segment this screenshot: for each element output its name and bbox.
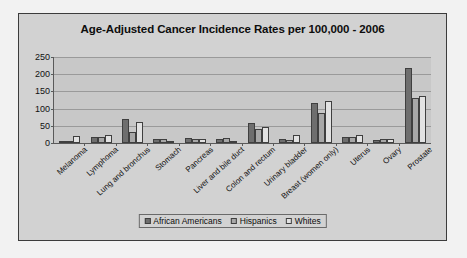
bar-group (85, 57, 116, 143)
bar (199, 139, 206, 143)
bar (342, 137, 349, 143)
bar (279, 139, 286, 143)
bar (160, 139, 167, 143)
legend-swatch-icon (144, 218, 150, 224)
legend-swatch-icon (231, 218, 237, 224)
legend-label: Hispanics (240, 216, 277, 226)
bar (286, 140, 293, 143)
legend-item[interactable]: African Americans (144, 216, 222, 226)
bar (311, 103, 318, 143)
bar-group (54, 57, 85, 143)
bar (255, 129, 262, 143)
bar (167, 141, 174, 143)
bar (325, 101, 332, 143)
bar (349, 137, 356, 143)
bar (153, 139, 160, 143)
bar (405, 68, 412, 143)
bar (318, 113, 325, 143)
bar (356, 135, 363, 143)
bar-group (400, 57, 431, 143)
legend-label: African Americans (153, 216, 222, 226)
bar-group (305, 57, 336, 143)
x-axis-label: Prostate (406, 145, 434, 172)
y-axis-tick-label: 0 (20, 138, 50, 148)
bar (122, 119, 129, 143)
bar (223, 138, 230, 143)
bar-group (274, 57, 305, 143)
legend-label: Whites (295, 216, 321, 226)
x-axis-label: Stomach (154, 145, 183, 173)
y-axis-tick-label: 150 (20, 86, 50, 96)
x-axis-label: Ovary (381, 145, 403, 166)
bar (192, 139, 199, 143)
bar (262, 127, 269, 144)
bar-group (337, 57, 368, 143)
chart-legend: African AmericansHispanicsWhites (138, 214, 326, 228)
legend-item[interactable]: Whites (286, 216, 321, 226)
chart-title: Age-Adjusted Cancer Incidence Rates per … (19, 23, 446, 35)
x-axis-label: Breast (women only) (280, 145, 341, 201)
bar-group (180, 57, 211, 143)
bar-group (117, 57, 148, 143)
bar (380, 139, 387, 143)
bar-groups (54, 57, 431, 143)
bar-group (148, 57, 179, 143)
bar (230, 141, 237, 143)
legend-swatch-icon (286, 218, 292, 224)
bar (129, 132, 136, 143)
bar (73, 136, 80, 143)
legend-item[interactable]: Hispanics (231, 216, 277, 226)
bar (248, 123, 255, 143)
plot-area: 050100150200250 (53, 57, 431, 144)
chart-frame: Age-Adjusted Cancer Incidence Rates per … (18, 13, 447, 241)
bar (59, 141, 66, 143)
y-axis-tick-mark (51, 143, 54, 144)
bar (185, 138, 192, 143)
bar (373, 140, 380, 143)
bar-group (368, 57, 399, 143)
bar (136, 122, 143, 143)
y-axis-tick-label: 250 (20, 52, 50, 62)
bar (419, 96, 426, 143)
bar (98, 137, 105, 143)
x-axis-label: Uterus (348, 145, 372, 167)
y-axis-tick-label: 100 (20, 104, 50, 114)
bar (216, 139, 223, 143)
bar (412, 98, 419, 143)
bar (387, 139, 394, 143)
bar (66, 141, 73, 143)
bar (105, 135, 112, 143)
bar-group (243, 57, 274, 143)
bar (293, 135, 300, 143)
bar-group (211, 57, 242, 143)
y-axis-tick-label: 50 (20, 121, 50, 131)
x-axis-label: Pancreas (183, 145, 214, 174)
bar (91, 137, 98, 143)
x-axis-label: Melanoma (55, 145, 89, 177)
y-axis-tick-label: 200 (20, 69, 50, 79)
